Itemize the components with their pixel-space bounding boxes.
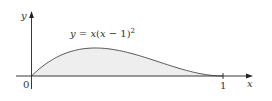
function-label: y = x(x − 1)2 (69, 27, 135, 39)
y-axis-arrow-icon (29, 11, 34, 18)
x-tick-label-1: 1 (220, 80, 226, 91)
origin-label: 0 (23, 79, 29, 90)
x-axis-label: x (247, 78, 253, 89)
chart: 0 1 x y y = x(x − 1)2 (0, 0, 272, 101)
y-axis-label: y (20, 10, 27, 21)
